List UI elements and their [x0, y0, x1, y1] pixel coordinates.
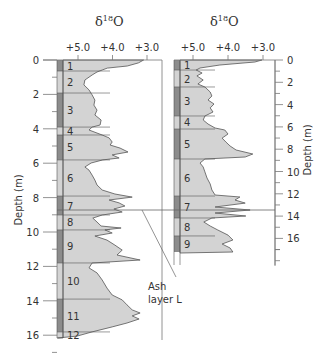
- zone-strip: [174, 87, 180, 116]
- zone-label: 2: [67, 77, 73, 88]
- y-tick-label: 4: [33, 124, 39, 135]
- zone-strip: [57, 93, 63, 127]
- right-y-axis-label: Depth (m): [302, 124, 313, 175]
- y-tick-label: 8: [287, 144, 293, 155]
- y-tick-label: 12: [287, 189, 300, 200]
- y-tick-label: 14: [26, 296, 39, 307]
- left-y-axis-label: Depth (m): [13, 174, 24, 225]
- zone-label: 6: [184, 173, 190, 184]
- zone-strip: [57, 263, 63, 299]
- ash-layer-label-line2: layer L: [148, 294, 182, 305]
- y-tick-label: 14: [287, 211, 300, 222]
- y-tick-label: 4: [287, 100, 293, 111]
- ash-layer-label-line1: Ash: [148, 281, 166, 292]
- y-tick-label: 10: [287, 167, 300, 178]
- zone-strip: [57, 332, 63, 338]
- zone-strip: [57, 196, 63, 215]
- y-tick-label: 2: [33, 89, 39, 100]
- left-panel-title: δ18O: [95, 14, 124, 29]
- right-panel-title: δ18O: [210, 14, 239, 29]
- chart-figure: 123456789101112+5.0+4.0+3.00246810121416…: [0, 0, 334, 356]
- zone-strip: [57, 160, 63, 196]
- x-tick-label: +3.0: [251, 42, 275, 53]
- y-tick-label: 0: [287, 55, 293, 66]
- zone-label: 1: [67, 61, 73, 72]
- zone-label: 3: [67, 105, 73, 116]
- zone-strip: [57, 60, 63, 71]
- zone-strip: [174, 159, 180, 196]
- zone-label: 4: [184, 117, 190, 128]
- zone-strip: [57, 135, 63, 160]
- right-core-panel: 123456789+5.0+4.0+3.00246810121416: [174, 42, 300, 266]
- y-tick-label: 16: [287, 233, 300, 244]
- left-core-panel: 123456789101112+5.0+4.0+3.00246810121416: [26, 42, 162, 352]
- x-tick-label: +4.0: [216, 42, 240, 53]
- y-tick-label: 8: [33, 193, 39, 204]
- zone-label: 5: [184, 139, 190, 150]
- zone-label: 4: [67, 126, 73, 137]
- zone-strip: [57, 299, 63, 332]
- zone-strip: [174, 236, 180, 252]
- zone-strip: [57, 215, 63, 230]
- zone-strip: [174, 196, 180, 218]
- y-tick-label: 6: [287, 122, 293, 133]
- y-tick-label: 6: [33, 158, 39, 169]
- zone-strip: [57, 127, 63, 135]
- zone-strip: [57, 230, 63, 263]
- y-tick-label: 0: [33, 55, 39, 66]
- zone-strip: [174, 70, 180, 87]
- x-tick-label: +5.0: [181, 42, 205, 53]
- zone-label: 10: [67, 276, 80, 287]
- y-tick-label: 10: [26, 227, 39, 238]
- zone-label: 8: [184, 222, 190, 233]
- zone-label: 3: [184, 96, 190, 107]
- zone-label: 9: [184, 239, 190, 250]
- zone-label: 6: [67, 173, 73, 184]
- x-tick-label: +5.0: [66, 42, 90, 53]
- x-tick-label: +4.0: [100, 42, 124, 53]
- zone-strip: [174, 218, 180, 236]
- zone-label: 12: [67, 330, 80, 341]
- zone-label: 8: [67, 217, 73, 228]
- delta18o-curve: [57, 60, 143, 338]
- zone-strip: [174, 116, 180, 129]
- zone-label: 5: [67, 142, 73, 153]
- zone-label: 7: [184, 202, 190, 213]
- y-tick-label: 2: [287, 77, 293, 88]
- zone-strip: [57, 71, 63, 93]
- ash-layer-pointer: [142, 210, 176, 277]
- y-tick-label: 12: [26, 261, 39, 272]
- y-tick-label: 16: [26, 330, 39, 341]
- zone-label: 2: [184, 74, 190, 85]
- zone-strip: [174, 129, 180, 159]
- delta18o-curve: [180, 60, 262, 253]
- zone-label: 11: [67, 311, 80, 322]
- zone-label: 1: [184, 60, 190, 71]
- chart-canvas: 123456789101112+5.0+4.0+3.00246810121416…: [0, 0, 334, 356]
- zone-label: 9: [67, 241, 73, 252]
- x-tick-label: +3.0: [135, 42, 159, 53]
- zone-strip: [174, 60, 180, 70]
